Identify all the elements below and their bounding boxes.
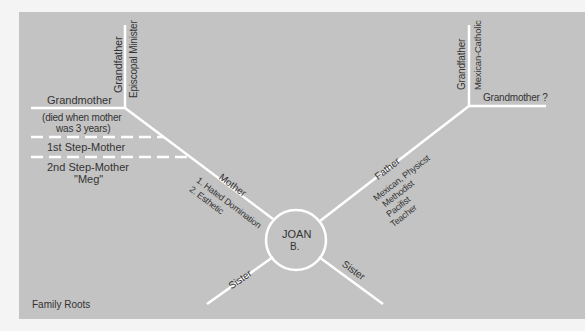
step-mother-2-label: 2nd Step-Mother <box>47 162 129 173</box>
maternal-grandfather-label: Grandfather <box>113 36 124 93</box>
step-mother-2-name: "Meg" <box>74 174 103 185</box>
paternal-grandfather-label: Grandfather <box>457 39 467 90</box>
caption: Family Roots <box>32 300 90 310</box>
grandmother-note-line2: was 3 years) <box>56 124 110 134</box>
maternal-grandmother-label: Grandmother <box>47 95 112 106</box>
joan-name: JOAN <box>282 229 311 240</box>
paternal-grandfather-note: Mexican-Catholic <box>473 20 483 90</box>
joan-circle <box>266 210 326 270</box>
step-mother-1-label: 1st Step-Mother <box>47 142 125 153</box>
joan-initial: B. <box>290 242 299 252</box>
mother-line <box>125 108 273 219</box>
grandmother-note-line1: (died when mother <box>42 113 121 123</box>
paternal-grandmother-label: Grandmother ? <box>483 93 548 103</box>
maternal-grandfather-note: Episcopal Minister <box>129 20 139 98</box>
